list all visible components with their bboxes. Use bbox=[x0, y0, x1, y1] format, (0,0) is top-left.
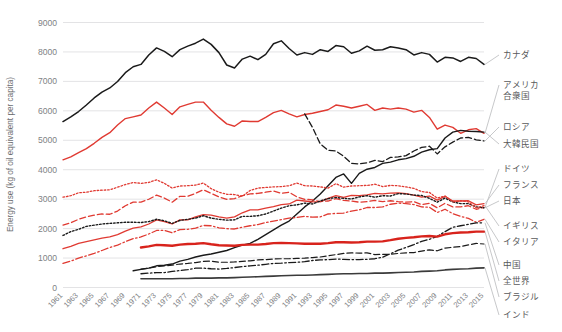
energy-use-line-chart: 0100020003000400050006000700080009000 19… bbox=[0, 0, 562, 332]
x-tick-label: 1983 bbox=[218, 291, 236, 309]
x-tick-label: 2015 bbox=[467, 291, 485, 309]
x-tick-label: 1993 bbox=[296, 291, 314, 309]
legend-label[interactable]: アメリカ bbox=[503, 80, 539, 90]
x-tick-label: 1971 bbox=[124, 291, 142, 309]
legend-label[interactable]: ブラジル bbox=[503, 291, 539, 302]
legend-label[interactable]: 全世界 bbox=[503, 275, 530, 286]
y-tick-label: 6000 bbox=[38, 106, 57, 116]
legend-label[interactable]: 日本 bbox=[503, 195, 521, 206]
series-line bbox=[63, 180, 484, 208]
y-tick-label: 1000 bbox=[38, 253, 57, 263]
gridlines bbox=[63, 23, 484, 288]
y-tick-label: 7000 bbox=[38, 76, 57, 86]
y-axis-ticks: 0100020003000400050006000700080009000 bbox=[38, 18, 57, 293]
legend-leader-lines bbox=[485, 55, 499, 315]
legend-label[interactable]: ロシア bbox=[503, 122, 530, 132]
x-tick-label: 1997 bbox=[327, 291, 345, 309]
y-tick-label: 3000 bbox=[38, 194, 57, 204]
series-line bbox=[141, 232, 484, 248]
x-tick-label: 1973 bbox=[140, 291, 158, 309]
x-tick-label: 1979 bbox=[186, 291, 204, 309]
series-line bbox=[305, 114, 484, 164]
x-tick-label: 2013 bbox=[452, 291, 470, 309]
x-tick-label: 1975 bbox=[155, 291, 173, 309]
x-tick-label: 1985 bbox=[233, 291, 251, 309]
y-tick-label: 5000 bbox=[38, 135, 57, 145]
x-tick-label: 2003 bbox=[374, 291, 392, 309]
x-tick-label: 1995 bbox=[311, 291, 329, 309]
x-tick-label: 1965 bbox=[77, 291, 95, 309]
x-tick-label: 1999 bbox=[342, 291, 360, 309]
x-tick-label: 2001 bbox=[358, 291, 376, 309]
x-tick-label: 1961 bbox=[46, 291, 64, 309]
legend-label[interactable]: 合衆国 bbox=[503, 90, 530, 101]
y-tick-label: 9000 bbox=[38, 18, 57, 28]
y-axis-title: Energy use (kg of oil equivalent per cap… bbox=[6, 77, 15, 232]
series-line bbox=[141, 243, 484, 269]
x-tick-label: 2007 bbox=[405, 291, 423, 309]
x-tick-label: 1991 bbox=[280, 291, 298, 309]
legend-leader bbox=[485, 85, 499, 133]
legend-leader bbox=[485, 55, 499, 64]
legend-label[interactable]: カナダ bbox=[503, 49, 530, 60]
legend-label[interactable]: イタリア bbox=[503, 237, 539, 247]
y-tick-label: 0 bbox=[52, 283, 57, 293]
x-tick-label: 1987 bbox=[249, 291, 267, 309]
legend-label[interactable]: ドイツ bbox=[503, 164, 530, 174]
x-tick-label: 1969 bbox=[108, 291, 126, 309]
x-tick-label: 1967 bbox=[93, 291, 111, 309]
legend-leader bbox=[485, 223, 499, 265]
x-axis-ticks: 1961196319651967196919711973197519771979… bbox=[46, 291, 485, 309]
legend: カナダアメリカ合衆国ロシア大韓民国ドイツフランス日本イギリスイタリア中国全世界ブ… bbox=[503, 49, 539, 320]
x-tick-label: 1981 bbox=[202, 291, 220, 309]
y-tick-label: 2000 bbox=[38, 224, 57, 234]
x-tick-label: 1963 bbox=[62, 291, 80, 309]
series-line bbox=[63, 203, 484, 263]
x-tick-label: 2005 bbox=[389, 291, 407, 309]
x-tick-label: 2009 bbox=[420, 291, 438, 309]
y-tick-label: 4000 bbox=[38, 165, 57, 175]
chart-container: 0100020003000400050006000700080009000 19… bbox=[0, 0, 562, 332]
series-lines bbox=[63, 39, 484, 279]
legend-label[interactable]: イギリス bbox=[503, 221, 539, 231]
legend-label[interactable]: 中国 bbox=[503, 259, 521, 270]
y-tick-label: 8000 bbox=[38, 47, 57, 57]
series-line bbox=[141, 223, 484, 274]
x-tick-label: 1989 bbox=[264, 291, 282, 309]
legend-label[interactable]: フランス bbox=[503, 180, 539, 190]
legend-label[interactable]: 大韓民国 bbox=[503, 138, 539, 149]
x-tick-label: 2011 bbox=[436, 291, 454, 309]
y-axis-title-text: Energy use (kg of oil equivalent per cap… bbox=[6, 77, 15, 232]
x-tick-label: 1977 bbox=[171, 291, 189, 309]
legend-leader bbox=[485, 244, 499, 297]
legend-label[interactable]: インド bbox=[503, 310, 530, 320]
series-line bbox=[141, 268, 484, 279]
